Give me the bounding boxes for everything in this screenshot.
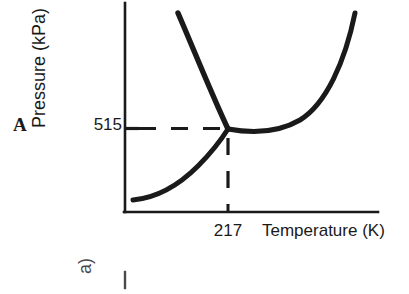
next-panel-canvas bbox=[0, 0, 409, 288]
phase-diagram-figure: A Pressure (kPa) 515 217 Temperature (K)… bbox=[0, 0, 409, 288]
